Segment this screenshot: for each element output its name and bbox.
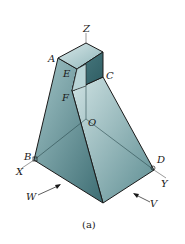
label-z: Z	[82, 23, 91, 34]
label-w: W	[26, 191, 37, 202]
figure-caption: (a)	[82, 219, 96, 230]
y-axis	[154, 170, 166, 178]
label-c: C	[106, 70, 114, 81]
arrowhead-w-icon	[55, 184, 61, 189]
label-f: F	[61, 92, 70, 103]
label-o: O	[88, 117, 96, 128]
isometric-solid-diagram: Z A E C F O B D X Y W V (a)	[0, 0, 185, 244]
label-y: Y	[161, 178, 169, 189]
label-a: A	[47, 53, 55, 64]
arrowhead-v-icon	[133, 193, 139, 198]
label-b: B	[23, 151, 31, 162]
label-x: X	[15, 166, 24, 177]
label-e: E	[62, 68, 71, 79]
label-d: D	[156, 154, 165, 165]
label-v: V	[150, 198, 159, 209]
